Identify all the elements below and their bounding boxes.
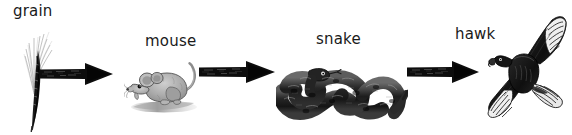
grain-label: grain <box>13 4 53 19</box>
snake-label: snake <box>316 32 361 47</box>
arrow-snake-to-hawk <box>406 58 480 86</box>
mouse-icon <box>124 57 206 115</box>
mouse-label: mouse <box>145 34 196 49</box>
arrow-mouse-to-snake <box>198 58 276 86</box>
food-chain-diagram: grain <box>0 0 572 135</box>
hawk-icon <box>482 12 570 130</box>
snake-icon <box>276 55 408 121</box>
arrow-grain-to-mouse <box>38 60 114 88</box>
